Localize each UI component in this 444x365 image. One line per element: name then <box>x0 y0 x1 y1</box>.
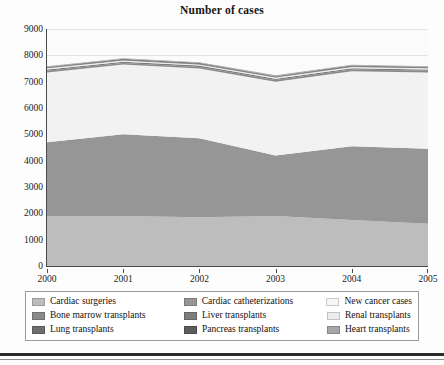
legend-item-label: Heart transplants <box>345 325 410 335</box>
legend-item-label: Cardiac surgeries <box>50 297 116 307</box>
x-axis-tick <box>276 269 277 273</box>
stacked-area-series <box>47 29 428 266</box>
chart-legend: Cardiac surgeriesCardiac catheterization… <box>25 291 419 341</box>
area-series <box>47 134 428 224</box>
bottom-divider-thin <box>0 359 444 360</box>
x-axis-labels: 200020012002200320042005 <box>47 269 428 283</box>
chart-page: Number of cases 010002000300040005000600… <box>0 0 444 365</box>
legend-item[interactable]: Bone marrow transplants <box>32 311 184 321</box>
x-axis-tick <box>47 269 48 273</box>
legend-swatch-icon <box>32 326 45 334</box>
legend-swatch-icon <box>32 312 45 320</box>
y-axis-labels: 0100020003000400050006000700080009000 <box>0 29 43 266</box>
x-axis-tick-label: 2001 <box>114 274 133 284</box>
y-axis-tick-label: 6000 <box>0 103 43 113</box>
legend-swatch-icon <box>327 326 340 334</box>
legend-item[interactable]: Lung transplants <box>32 325 184 335</box>
y-axis-tick-label: 1000 <box>0 235 43 245</box>
legend-item-label: New cancer cases <box>344 297 412 307</box>
x-axis-tick-label: 2000 <box>38 274 57 284</box>
legend-item[interactable]: Pancreas transplants <box>184 325 327 335</box>
page-title: Number of cases <box>0 4 444 16</box>
y-axis-tick-label: 4000 <box>0 156 43 166</box>
y-axis-tick-label: 7000 <box>0 77 43 87</box>
x-axis-tick-label: 2003 <box>266 274 285 284</box>
legend-item[interactable]: Cardiac surgeries <box>32 297 184 307</box>
y-axis-tick-label: 2000 <box>0 208 43 218</box>
legend-swatch-icon <box>184 312 197 320</box>
x-axis-tick <box>352 269 353 273</box>
y-axis-tick-label: 3000 <box>0 182 43 192</box>
x-axis-tick <box>199 269 200 273</box>
legend-row: Cardiac surgeriesCardiac catheterization… <box>32 295 412 309</box>
y-axis-tick-label: 9000 <box>0 24 43 34</box>
area-series <box>47 216 428 266</box>
legend-item[interactable]: Liver transplants <box>184 311 327 321</box>
legend-swatch-icon <box>326 298 339 306</box>
legend-swatch-icon <box>327 312 340 320</box>
y-axis-tick-label: 5000 <box>0 129 43 139</box>
legend-item[interactable]: New cancer cases <box>326 297 412 307</box>
x-axis-tick-label: 2004 <box>342 274 361 284</box>
legend-item[interactable]: Renal transplants <box>327 311 411 321</box>
legend-item-label: Cardiac catheterizations <box>202 297 294 307</box>
legend-swatch-icon <box>184 326 197 334</box>
x-axis-tick-label: 2002 <box>190 274 209 284</box>
y-axis-tick-label: 0 <box>0 261 43 271</box>
legend-item-label: Liver transplants <box>202 311 266 321</box>
legend-swatch-icon <box>32 298 45 306</box>
x-axis-tick <box>427 269 428 273</box>
x-axis-line <box>46 266 428 267</box>
legend-row: Lung transplantsPancreas transplantsHear… <box>32 323 412 337</box>
plot-area <box>47 29 428 266</box>
legend-item-label: Bone marrow transplants <box>50 311 146 321</box>
x-axis-tick <box>123 269 124 273</box>
y-axis-tick-label: 8000 <box>0 50 43 60</box>
legend-swatch-icon <box>184 298 197 306</box>
legend-item-label: Pancreas transplants <box>202 325 279 335</box>
legend-item-label: Renal transplants <box>345 311 411 321</box>
legend-item[interactable]: Heart transplants <box>327 325 410 335</box>
y-axis-line <box>46 29 47 266</box>
bottom-divider <box>0 353 444 356</box>
legend-row: Bone marrow transplantsLiver transplants… <box>32 309 412 323</box>
legend-item-label: Lung transplants <box>50 325 114 335</box>
x-axis-tick-label: 2005 <box>419 274 438 284</box>
legend-item[interactable]: Cardiac catheterizations <box>184 297 327 307</box>
